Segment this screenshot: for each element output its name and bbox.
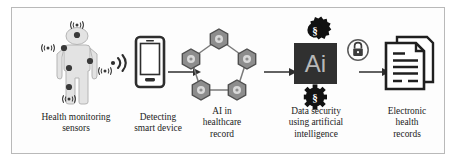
caption-line: intelligence [264,129,368,140]
documents-icon [380,34,444,94]
wireless-signal-icon [111,55,126,71]
caption-line: Electronic [371,106,443,117]
caption-line: health [371,117,443,128]
svg-text:§: § [312,91,318,103]
ai-block-label: Ai [305,50,326,77]
diagram-frame: § Ai [11,7,445,154]
caption-line: AI in [183,106,261,117]
padlock-icon [348,40,368,60]
caption-data-security-using-artificial-intelligence: Data security using artificial intellige… [264,106,368,140]
hexagon-network-icon [172,22,266,102]
svg-text:§: § [312,24,318,36]
ai-block: Ai [294,43,337,84]
caption-line: record [183,129,261,140]
gear-top-icon: § [307,17,331,40]
caption-line: records [371,129,443,140]
human-figure [57,28,97,105]
caption-line: Data security [264,106,368,117]
caption-ai-in-healthcare-record: AI in healthcare record [183,106,261,140]
caption-line: healthcare [183,117,261,128]
caption-line: using artificial [264,117,368,128]
caption-electronic-health-records: Electronic health records [371,106,443,140]
ai-security-icon: § Ai [280,16,370,110]
phone-body [136,37,164,87]
diagram-stage: § Ai [12,8,444,153]
figure-canvas: § Ai [0,0,459,166]
